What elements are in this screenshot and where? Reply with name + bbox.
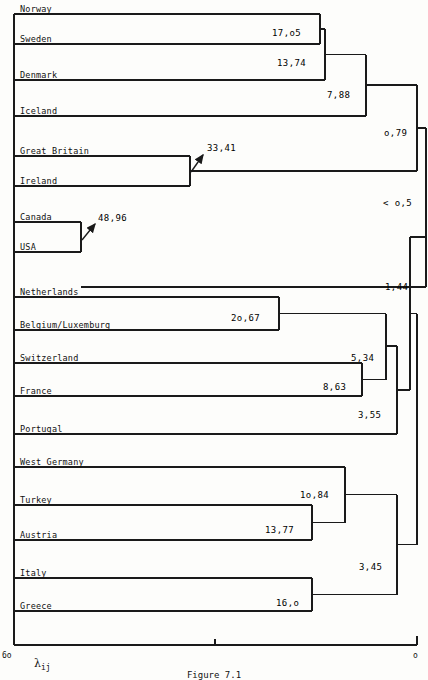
annotation-arrows	[82, 155, 203, 240]
axis-left-tick-label: 6o	[2, 651, 12, 660]
lambda-symbol: λ	[34, 657, 41, 670]
dendrogram-figure: NorwaySwedenDenmarkIcelandGreat BritainI…	[0, 0, 428, 680]
merge-value-label: 48,96	[98, 213, 127, 223]
leaf-label: West Germany	[20, 457, 84, 467]
leaf-label: Ireland	[20, 176, 57, 186]
leaf-label: Greece	[20, 601, 52, 611]
annotation-arrow-m4	[191, 155, 203, 172]
merge-value-label: 3,45	[359, 562, 382, 572]
leaf-label: France	[20, 386, 52, 396]
leaf-label: Netherlands	[20, 287, 79, 297]
merge-value-label: o,79	[384, 128, 407, 138]
merge-value-label: 2o,67	[231, 313, 260, 323]
figure-caption: Figure 7.1	[0, 670, 428, 680]
axis-right-tick-label: o	[413, 651, 418, 660]
leaf-label: Norway	[20, 4, 52, 14]
leaf-label: USA	[20, 242, 36, 252]
leaf-label: Canada	[20, 212, 52, 222]
merge-value-label: 1,44	[385, 282, 408, 292]
merge-value-label: 33,41	[207, 143, 236, 153]
leaf-label: Italy	[20, 568, 47, 578]
tree-lines	[14, 14, 426, 611]
leaf-label: Denmark	[20, 70, 57, 80]
annotation-arrow-m5	[82, 224, 95, 240]
merge-value-label: 8,63	[323, 382, 346, 392]
merge-value-label: < o,5	[383, 198, 412, 208]
dendrogram-canvas	[0, 0, 428, 680]
leaf-label: Great Britain	[20, 146, 89, 156]
leaf-label: Austria	[20, 530, 57, 540]
leaf-label: Sweden	[20, 34, 52, 44]
merge-value-label: 1o,84	[300, 490, 329, 500]
leaf-label: Turkey	[20, 495, 52, 505]
leaf-label: Belgium/Luxemburg	[20, 320, 110, 330]
leaf-label: Portugal	[20, 424, 63, 434]
merge-value-label: 17,o5	[272, 28, 301, 38]
merge-value-label: 16,o	[276, 598, 299, 608]
merge-value-label: 3,55	[358, 410, 381, 420]
merge-value-label: 13,77	[265, 525, 294, 535]
merge-value-label: 13,74	[277, 58, 306, 68]
merge-value-label: 7,88	[327, 90, 350, 100]
leaf-label: Iceland	[20, 106, 57, 116]
merge-value-label: 5,34	[351, 353, 374, 363]
leaf-label: Switzerland	[20, 353, 79, 363]
